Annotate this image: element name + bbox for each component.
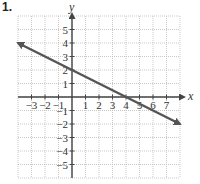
x-axis-label: x <box>187 89 194 103</box>
x-tick-label: −3 <box>26 99 38 111</box>
x-tick-label: 2 <box>96 99 102 111</box>
y-tick-label: −2 <box>56 118 68 130</box>
y-tick-label: 5 <box>63 24 69 36</box>
y-tick-label: −3 <box>56 132 68 144</box>
y-axis-label: y <box>68 0 75 14</box>
x-tick-label: 3 <box>110 99 116 111</box>
x-tick-label: 1 <box>83 99 89 111</box>
coordinate-plane: xy−3−2−1123456754321−1−2−3−4−5 <box>0 0 200 184</box>
y-tick-label: 4 <box>63 37 69 49</box>
y-tick-label: 3 <box>63 51 69 63</box>
x-tick-label: −2 <box>39 99 51 111</box>
y-tick-label: −1 <box>56 105 68 117</box>
x-tick-label: 7 <box>164 99 170 111</box>
y-tick-label: −5 <box>56 159 68 171</box>
x-tick-label: 4 <box>123 99 129 111</box>
y-tick-label: 1 <box>63 78 69 90</box>
y-tick-label: −4 <box>56 145 68 157</box>
